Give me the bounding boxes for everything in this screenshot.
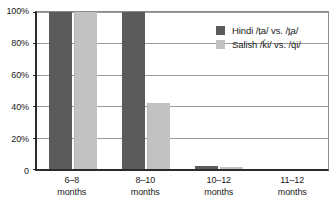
chart-legend: Hindi /ṭa/ vs. /t̪a/ Salish /ḱi/ vs. /q́…: [216, 24, 301, 52]
bar-group: [37, 12, 110, 169]
x-axis-labels: 6–8 months 8–10 months 10–12 months 11–1…: [35, 175, 329, 198]
x-axis-category: 11–12 months: [256, 175, 330, 198]
x-axis-category-line1: 8–10: [135, 175, 155, 185]
legend-label: Salish /ḱi/ vs. /q́i/: [232, 39, 301, 50]
y-axis-tick-label: 80%: [11, 39, 29, 48]
bar-hindi: [49, 12, 72, 169]
bar-salish: [220, 167, 243, 169]
bar-salish: [74, 12, 97, 169]
x-axis-category-line2: months: [35, 187, 109, 199]
bar-group: [110, 12, 183, 169]
legend-item-hindi: Hindi /ṭa/ vs. /t̪a/: [216, 24, 301, 37]
y-axis-tick-label: 100%: [6, 7, 29, 16]
bar-hindi: [122, 12, 145, 169]
x-axis-category-line1: 10–12: [206, 175, 231, 185]
x-axis-category: 10–12 months: [182, 175, 256, 198]
y-axis-tick-label: 20%: [11, 135, 29, 144]
y-axis-tick-label: 60%: [11, 71, 29, 80]
y-axis-tick: [33, 169, 37, 170]
y-axis-tick-label: 0: [24, 167, 29, 176]
x-axis-category-line2: months: [256, 187, 330, 199]
bar-salish: [147, 103, 170, 169]
light-gray-swatch-icon: [216, 40, 225, 49]
dark-gray-swatch-icon: [216, 26, 225, 35]
y-axis-labels: 100% 80% 60% 40% 20% 0: [0, 11, 33, 171]
x-axis-category: 8–10 months: [109, 175, 183, 198]
x-axis-category-line1: 6–8: [64, 175, 79, 185]
x-axis-category-line2: months: [182, 187, 256, 199]
x-axis-category: 6–8 months: [35, 175, 109, 198]
bar-hindi: [195, 166, 218, 169]
legend-item-salish: Salish /ḱi/ vs. /q́i/: [216, 38, 301, 51]
x-axis-category-line2: months: [109, 187, 183, 199]
legend-label: Hindi /ṭa/ vs. /t̪a/: [232, 25, 298, 36]
x-axis-category-line1: 11–12: [280, 175, 304, 185]
bar-chart: 100% 80% 60% 40% 20% 0: [0, 0, 336, 213]
y-axis-tick-label: 40%: [11, 103, 29, 112]
